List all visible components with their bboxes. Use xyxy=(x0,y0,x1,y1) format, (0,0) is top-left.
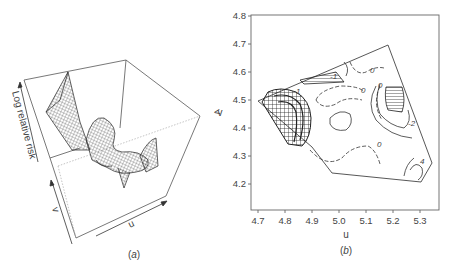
contour-label: 1 xyxy=(296,87,300,96)
contour-label: -2 xyxy=(408,119,416,128)
panel-b-contour-plot: 4.2 4.3 4.4 4.5 4.6 4.7 4.8 v 4.7 4.8 4.… xyxy=(218,10,440,256)
u-axis-label: u xyxy=(126,217,136,229)
high-risk-hatched-region xyxy=(262,89,311,146)
x-tick-labels: 4.7 4.8 4.9 5.0 5.1 5.2 5.3 xyxy=(251,215,426,226)
svg-text:4.8: 4.8 xyxy=(233,10,246,21)
panel-a-caption: (a) xyxy=(128,249,140,260)
svg-text:4.3: 4.3 xyxy=(233,150,246,161)
contour-label: 4 xyxy=(420,157,425,166)
svg-text:4.6: 4.6 xyxy=(233,66,246,77)
svg-text:4.7: 4.7 xyxy=(233,38,246,49)
contour-label: 0 xyxy=(377,140,382,149)
svg-text:5.2: 5.2 xyxy=(386,215,399,226)
contour-label: -1 xyxy=(330,72,337,81)
y-tick-labels: 4.2 4.3 4.4 4.5 4.6 4.7 4.8 xyxy=(233,10,246,189)
svg-text:5.0: 5.0 xyxy=(332,215,345,226)
v-axis-arrow-icon xyxy=(50,180,54,186)
svg-text:4.5: 4.5 xyxy=(233,94,246,105)
svg-text:5.1: 5.1 xyxy=(359,215,372,226)
z-axis-arrow-icon xyxy=(18,82,22,88)
y-axis-label: v xyxy=(218,107,223,118)
svg-text:4.2: 4.2 xyxy=(233,178,246,189)
u-axis-arrow-icon xyxy=(161,201,167,206)
contour-label: 0 xyxy=(370,66,375,75)
low-risk-hatched-region xyxy=(385,87,404,112)
svg-text:4.9: 4.9 xyxy=(305,215,318,226)
v-axis-label-front: v xyxy=(50,206,62,214)
risk-surface-wireframe xyxy=(46,72,158,188)
svg-text:4.8: 4.8 xyxy=(278,215,291,226)
svg-text:5.3: 5.3 xyxy=(413,215,426,226)
contour-label: 0 xyxy=(361,86,366,95)
svg-text:4.4: 4.4 xyxy=(233,122,246,133)
panel-a-perspective-plot: Log relative risk v u v (a) xyxy=(10,60,224,260)
z-axis-label: Log relative risk xyxy=(10,90,39,161)
panel-b-caption: (b) xyxy=(340,245,352,256)
x-axis-label: u xyxy=(343,229,349,240)
contour-label: 0 xyxy=(378,81,383,90)
figure: Log relative risk v u v (a) 4.2 4.3 4.4 … xyxy=(0,0,452,272)
svg-text:4.7: 4.7 xyxy=(251,215,264,226)
